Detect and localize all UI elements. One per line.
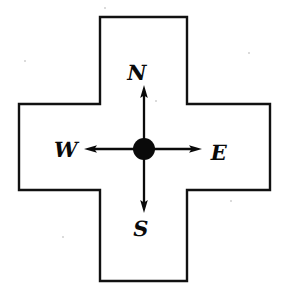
west-label: W bbox=[54, 139, 78, 160]
diagram-canvas: N W E S bbox=[0, 0, 284, 297]
scan-speck bbox=[24, 60, 26, 62]
south-label: S bbox=[133, 218, 149, 239]
scan-speck bbox=[104, 7, 106, 9]
east-label: E bbox=[211, 142, 228, 163]
center-dot bbox=[133, 138, 155, 160]
scan-speck bbox=[62, 236, 64, 238]
scan-speck bbox=[248, 52, 250, 54]
compass-cross-diagram bbox=[0, 0, 284, 297]
north-label: N bbox=[127, 62, 147, 83]
scan-speck bbox=[230, 200, 232, 202]
scan-speck bbox=[155, 100, 157, 102]
